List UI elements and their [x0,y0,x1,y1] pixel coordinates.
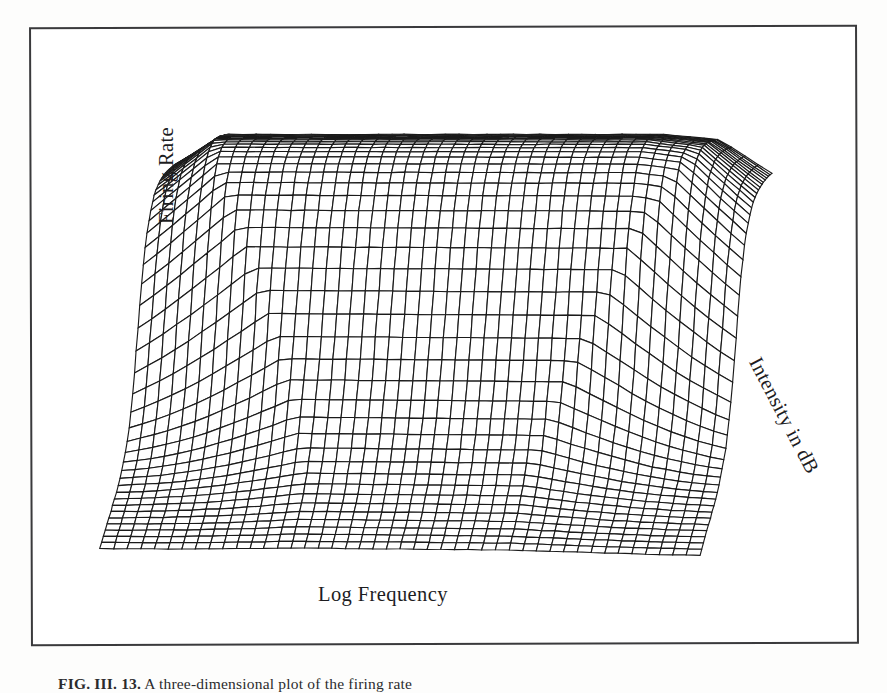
wireframe-mesh [100,134,772,555]
figure-page: Firing Rate Log Frequency Intensity in d… [0,0,887,693]
axis-label-log-frequency: Log Frequency [318,583,448,606]
caption-body: A three-dimensional plot of the firing r… [141,675,412,692]
caption-number: FIG. III. 13. [58,675,141,692]
axis-label-firing-rate: Firing Rate [155,86,178,266]
figure-caption: FIG. III. 13. A three-dimensional plot o… [58,675,858,693]
